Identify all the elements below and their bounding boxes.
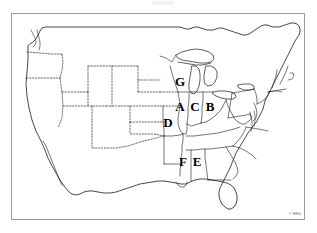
label-f: F	[179, 155, 187, 168]
label-g: G	[175, 75, 185, 88]
label-c: C	[190, 100, 199, 113]
label-a: A	[175, 100, 184, 113]
map-label-layer: ABCDEFG	[0, 0, 317, 233]
map-figure: ABCDEFG © HRG	[0, 0, 317, 233]
label-b: B	[206, 100, 215, 113]
copyright-notice: © HRG	[289, 212, 301, 216]
label-e: E	[193, 155, 202, 168]
label-d: D	[163, 116, 172, 129]
